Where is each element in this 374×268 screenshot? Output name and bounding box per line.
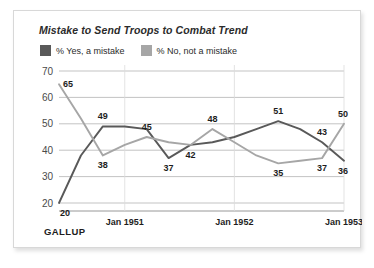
gallup-brand-label: GALLUP (44, 226, 85, 237)
chart-plot-area: 203040506070 204937514336653845424835375… (14, 11, 362, 249)
x-axis-tick-label: Jan 1952 (215, 217, 253, 227)
y-axis-tick-label: 70 (42, 66, 54, 77)
data-label: 37 (164, 163, 174, 173)
vertical-gridlines-group (125, 65, 344, 211)
y-axis-tick-labels: 203040506070 (42, 66, 54, 209)
gridlines-group (59, 71, 344, 211)
data-label: 48 (207, 114, 217, 124)
y-axis-tick-label: 60 (42, 92, 54, 103)
data-label: 65 (63, 79, 73, 89)
y-axis-tick-label: 20 (42, 198, 54, 209)
data-label: 51 (273, 106, 283, 116)
data-label: 50 (338, 109, 348, 119)
y-axis-tick-label: 30 (42, 171, 54, 182)
data-label: 38 (98, 160, 108, 170)
data-point-labels-group: 2049375143366538454248353750 (60, 79, 348, 218)
x-axis-tick-label: Jan 1953 (325, 217, 362, 227)
chart-card: Mistake to Send Troops to Combat Trend %… (13, 10, 361, 248)
line-chart-svg: 203040506070 204937514336653845424835375… (14, 11, 362, 249)
x-axis-tick-labels: Jan 1951Jan 1952Jan 1953 (106, 217, 362, 227)
data-label: 49 (98, 111, 108, 121)
data-label: 43 (317, 127, 327, 137)
data-label: 45 (142, 122, 152, 132)
series-lines-group (59, 84, 344, 203)
data-label: 42 (186, 150, 196, 160)
y-axis-tick-label: 40 (42, 145, 54, 156)
data-label: 35 (273, 168, 283, 178)
y-axis-tick-label: 50 (42, 118, 54, 129)
x-axis-tick-label: Jan 1951 (106, 217, 144, 227)
data-label: 20 (60, 208, 70, 218)
data-label: 36 (338, 166, 348, 176)
data-label: 37 (317, 163, 327, 173)
